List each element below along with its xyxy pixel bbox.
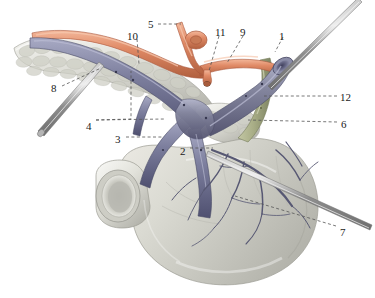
label-1: 1	[279, 31, 285, 42]
label-6: 6	[341, 119, 347, 130]
probe-right-upper	[268, 0, 362, 90]
label-4: 4	[86, 121, 92, 132]
label-7: 7	[340, 227, 346, 238]
leader-4b	[96, 119, 165, 120]
anatomy-illustration	[0, 0, 375, 298]
label-8: 8	[51, 83, 57, 94]
label-10: 10	[127, 31, 138, 42]
label-11: 11	[215, 27, 226, 38]
label-2: 2	[180, 146, 186, 157]
anatomical-figure: 510119112684327	[0, 0, 375, 298]
label-9: 9	[240, 27, 246, 38]
label-3: 3	[115, 134, 121, 145]
label-5: 5	[148, 19, 154, 30]
label-12: 12	[340, 92, 351, 103]
